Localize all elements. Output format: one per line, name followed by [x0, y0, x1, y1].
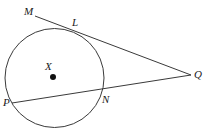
point-label-q: Q	[194, 69, 202, 80]
center-point-label: X	[45, 61, 52, 72]
point-label-m: M	[24, 6, 33, 17]
center-point-dot	[50, 74, 56, 80]
tangent-line-mq	[35, 16, 191, 75]
point-label-l: L	[72, 17, 78, 28]
geometry-canvas	[0, 0, 209, 131]
point-label-n: N	[102, 94, 109, 105]
geometry-figure: M L Q N P X	[0, 0, 209, 131]
point-label-p: P	[3, 97, 10, 108]
